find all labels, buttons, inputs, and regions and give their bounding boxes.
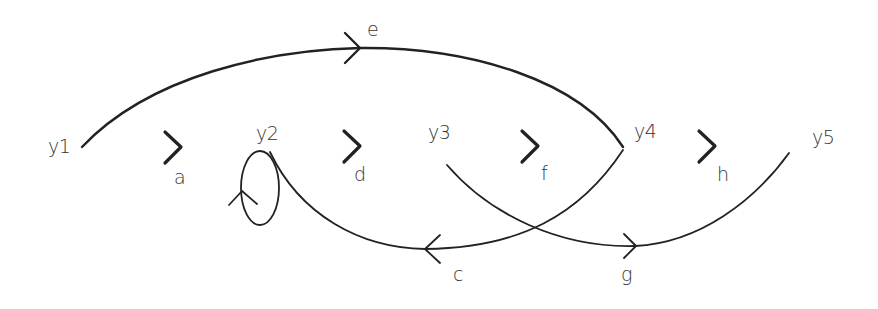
edge-label-e: e xyxy=(367,20,378,39)
arrow-d-icon xyxy=(344,131,360,162)
edge-label-f: f xyxy=(541,164,547,183)
signal-flow-graph: y1 y2 y3 y4 y5 a d e f h c g xyxy=(0,0,878,309)
arrow-f-icon xyxy=(522,131,538,162)
self-loop-y2 xyxy=(241,151,279,225)
node-label-y3: y3 xyxy=(428,123,450,142)
edge-label-c: c xyxy=(453,265,463,284)
node-label-y5: y5 xyxy=(812,128,834,147)
graph-edges xyxy=(0,0,878,309)
arrow-h-icon xyxy=(699,131,715,162)
edge-label-d: d xyxy=(354,165,366,184)
node-label-y1: y1 xyxy=(48,137,70,156)
node-label-y4: y4 xyxy=(634,122,656,141)
edge-label-a: a xyxy=(174,168,185,187)
edge-label-g: g xyxy=(621,265,632,284)
node-label-y2: y2 xyxy=(256,124,278,143)
edge-label-h: h xyxy=(717,165,729,184)
edge-g xyxy=(447,153,789,246)
arrow-a-icon xyxy=(165,132,181,163)
edge-e xyxy=(82,48,623,147)
